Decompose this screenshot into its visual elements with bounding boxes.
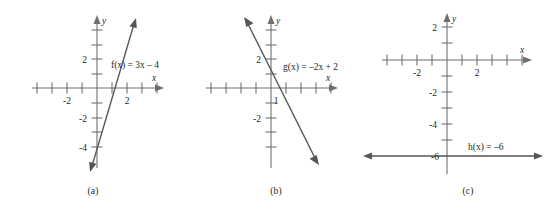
function-label-h: h(x) = –6	[468, 142, 504, 153]
panel-caption-a: (a)	[0, 186, 186, 196]
y-axis-b	[266, 15, 277, 168]
y-tick-label-2-b: 2	[256, 55, 261, 65]
y-tick-label-neg6-c: -6	[431, 152, 439, 162]
x-axis-label-c: x	[519, 45, 525, 55]
y-axis-label-c: y	[451, 14, 457, 24]
y-tick-label-2-a: 2	[82, 55, 87, 65]
x-axis-c	[382, 55, 532, 66]
y-tick-label-neg4-c: -4	[429, 120, 437, 130]
plot-c: -2 2 2 -2 -4 -6 x y h(x) = –6	[360, 0, 546, 186]
x-axis-b	[206, 83, 338, 94]
y-tick-label-neg4-a: -4	[79, 143, 87, 153]
x-axis-label-b: x	[325, 73, 331, 83]
plot-b: 1 2 -2 x y g(x) = –2x + 2	[180, 0, 366, 186]
graph-line-g	[244, 17, 319, 165]
y-tick-label-2-c: 2	[432, 23, 437, 33]
function-label-g: g(x) = –2x + 2	[283, 62, 338, 73]
figure-linear-functions: -2 2 2 -2 -4 x y f(x) = 3x – 4 (a)	[0, 0, 546, 212]
x-tick-label-neg2-a: -2	[63, 96, 71, 106]
panel-a: -2 2 2 -2 -4 x y f(x) = 3x – 4 (a)	[0, 0, 186, 212]
graph-line-f	[89, 18, 137, 172]
panel-b: 1 2 -2 x y g(x) = –2x + 2 (b)	[180, 0, 366, 212]
x-tick-label-2-c: 2	[475, 68, 480, 78]
x-tick-label-1-b: 1	[274, 96, 279, 106]
plot-a: -2 2 2 -2 -4 x y f(x) = 3x – 4	[0, 0, 186, 186]
function-label-f: f(x) = 3x – 4	[111, 60, 159, 71]
graph-line-h	[363, 153, 543, 160]
x-tick-label-neg2-c: -2	[413, 68, 421, 78]
panel-caption-b: (b)	[180, 186, 366, 196]
x-tick-label-2-a: 2	[125, 96, 130, 106]
y-tick-label-neg2-b: -2	[253, 114, 261, 124]
y-axis-c	[442, 13, 453, 174]
x-axis-a	[32, 83, 164, 94]
y-axis-label-b: y	[275, 16, 281, 26]
y-axis-a	[92, 15, 103, 168]
y-tick-label-neg2-c: -2	[429, 88, 437, 98]
panel-caption-c: (c)	[360, 186, 546, 196]
panel-c: -2 2 2 -2 -4 -6 x y h(x) = –6 (c)	[360, 0, 546, 212]
x-axis-label-a: x	[151, 73, 157, 83]
y-tick-label-neg2-a: -2	[79, 114, 87, 124]
y-axis-label-a: y	[101, 16, 107, 26]
